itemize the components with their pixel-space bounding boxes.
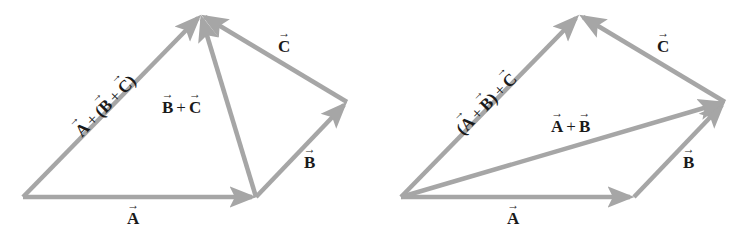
vector-addition-diagram (0, 0, 742, 237)
vector-b-symbol: B (683, 154, 694, 171)
label-vector-b: B (683, 154, 694, 171)
vector-a-symbol: A (551, 118, 563, 135)
label-vector-c: C (278, 38, 290, 55)
label-vector-b: B (304, 154, 315, 171)
label-vector-c: C (657, 38, 669, 55)
vector-c-symbol: C (657, 38, 669, 55)
label-vector-a: A (127, 210, 139, 227)
vector-b-symbol: B (579, 118, 590, 135)
vector-b-arrow (256, 105, 344, 197)
vector-a-symbol: A (507, 210, 519, 227)
label-a-plus-b: A+B (551, 118, 590, 135)
vector-b-arrow (634, 105, 722, 197)
label-b-plus-c: B+C (162, 99, 201, 116)
vector-c-arrow (205, 17, 347, 102)
vector-c-symbol: C (189, 99, 201, 116)
vector-b-symbol: B (304, 154, 315, 171)
vector-c-arrow (583, 17, 725, 102)
vector-a-symbol: A (127, 210, 139, 227)
vector-c-symbol: C (278, 38, 290, 55)
plus-sign: + (563, 117, 579, 136)
plus-sign: + (173, 98, 189, 117)
vector-b-plus-c-arrow (202, 19, 256, 197)
label-vector-a: A (507, 210, 519, 227)
vector-b-symbol: B (162, 99, 173, 116)
